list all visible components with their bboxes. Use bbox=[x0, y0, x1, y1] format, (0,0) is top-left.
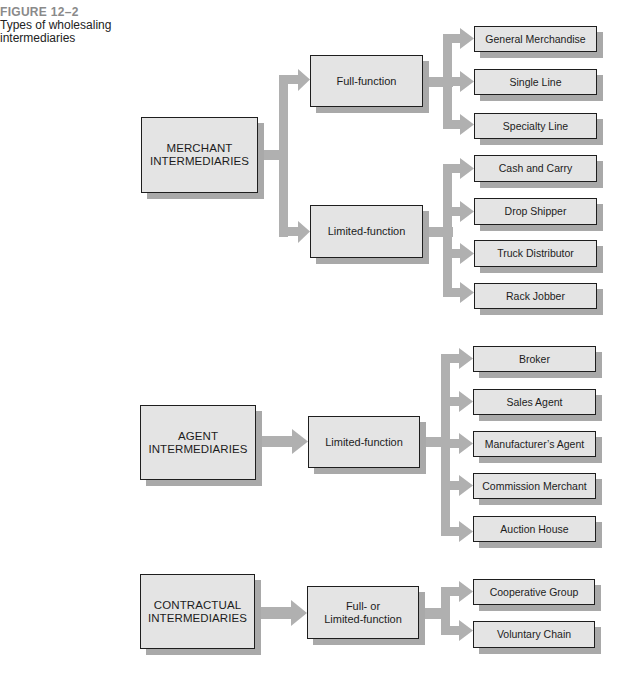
arrow-head bbox=[298, 69, 310, 91]
box-label: Cash and Carry bbox=[499, 162, 573, 175]
broker-box: Broker bbox=[473, 346, 596, 372]
agent-limited-function-box: Limited-function bbox=[308, 416, 420, 468]
box-label: General Merchandise bbox=[485, 33, 585, 46]
arrow-head bbox=[298, 221, 310, 243]
box-label: Cooperative Group bbox=[490, 586, 579, 599]
box-label: Commission Merchant bbox=[482, 480, 586, 493]
box-label: AGENT INTERMEDIARIES bbox=[148, 430, 247, 456]
contractual-intermediaries-box: CONTRACTUAL INTERMEDIARIES bbox=[140, 574, 255, 649]
box-label: Single Line bbox=[510, 76, 562, 89]
box-label: Limited-function bbox=[325, 436, 403, 449]
box-label: Full-function bbox=[337, 75, 397, 88]
general-merchandise-box: General Merchandise bbox=[474, 26, 597, 52]
box-label: CONTRACTUAL INTERMEDIARIES bbox=[148, 599, 247, 625]
box-label: Rack Jobber bbox=[506, 290, 565, 303]
merchant-full-function-box: Full-function bbox=[310, 55, 423, 107]
drop-shipper-box: Drop Shipper bbox=[474, 198, 597, 225]
merchant-vertical-bar bbox=[279, 75, 288, 237]
box-label: Voluntary Chain bbox=[497, 628, 571, 641]
box-label: Sales Agent bbox=[506, 396, 562, 409]
specialty-line-box: Specialty Line bbox=[474, 113, 597, 139]
voluntary-chain-box: Voluntary Chain bbox=[473, 621, 595, 648]
merchant-intermediaries-box: MERCHANT INTERMEDIARIES bbox=[141, 117, 258, 193]
box-label: Limited-function bbox=[328, 225, 406, 238]
rack-jobber-box: Rack Jobber bbox=[474, 283, 597, 309]
box-label: Drop Shipper bbox=[505, 205, 567, 218]
box-label: Specialty Line bbox=[503, 120, 568, 133]
box-label: Auction House bbox=[500, 523, 568, 536]
contractual-full-or-limited-function-box: Full- or Limited-function bbox=[307, 586, 419, 639]
commission-merchant-box: Commission Merchant bbox=[473, 473, 596, 499]
manufacturers-agent-box: Manufacturer’s Agent bbox=[473, 431, 596, 457]
box-label: Full- or Limited-function bbox=[324, 600, 402, 626]
cooperative-group-box: Cooperative Group bbox=[473, 579, 595, 605]
single-line-box: Single Line bbox=[474, 69, 597, 95]
cash-and-carry-box: Cash and Carry bbox=[474, 155, 597, 182]
truck-distributor-box: Truck Distributor bbox=[474, 240, 597, 267]
auction-house-box: Auction House bbox=[473, 516, 596, 542]
merchant-limited-function-box: Limited-function bbox=[310, 205, 423, 258]
box-label: Truck Distributor bbox=[497, 247, 574, 260]
box-label: Manufacturer’s Agent bbox=[485, 438, 584, 451]
box-label: Broker bbox=[519, 353, 550, 366]
agent-intermediaries-box: AGENT INTERMEDIARIES bbox=[140, 405, 256, 480]
sales-agent-box: Sales Agent bbox=[473, 389, 596, 415]
box-label: MERCHANT INTERMEDIARIES bbox=[150, 142, 249, 168]
